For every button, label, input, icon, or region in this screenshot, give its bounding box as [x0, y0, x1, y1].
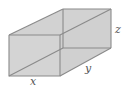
label-y: y — [85, 63, 91, 74]
front-face — [9, 35, 60, 76]
label-z: z — [115, 24, 121, 35]
box-diagram — [0, 0, 128, 90]
label-x: x — [30, 76, 36, 87]
